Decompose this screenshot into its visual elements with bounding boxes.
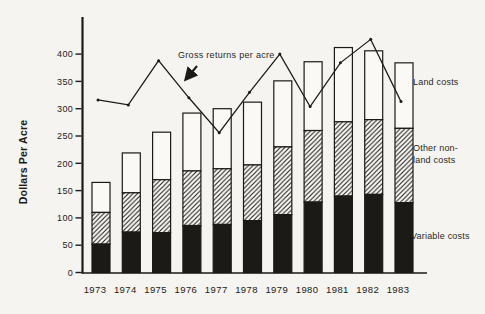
bar-group-1978 (244, 102, 262, 272)
bar-segment-variable-costs (244, 221, 262, 273)
bar-group-1981 (334, 48, 352, 273)
x-tick-label-1974: 1974 (114, 284, 137, 295)
x-tick-label-1977: 1977 (205, 284, 228, 295)
chart-figure: Dollars Per Acre 05010015020025030035040… (0, 0, 485, 314)
y-tick-label-350: 350 (57, 77, 73, 87)
bar-segment-other-nonland-costs (334, 122, 352, 196)
bar-segment-other-nonland-costs (395, 128, 413, 202)
x-tick-label-1978: 1978 (235, 284, 258, 295)
line-point-1973 (97, 98, 100, 101)
bar-segment-land-costs (274, 81, 292, 147)
y-tick-label-250: 250 (57, 131, 73, 141)
line-point-1982 (369, 38, 372, 41)
x-tick-label-1981: 1981 (326, 284, 349, 295)
bar-segment-other-nonland-costs (122, 193, 140, 232)
line-point-1977 (218, 131, 221, 134)
bar-group-1977 (213, 109, 231, 273)
variable-costs-label: Variable costs (411, 231, 470, 243)
bar-segment-land-costs (92, 182, 110, 212)
bar-group-1975 (153, 132, 171, 272)
bar-segment-land-costs (122, 153, 140, 193)
line-point-1979 (278, 53, 281, 56)
bar-segment-other-nonland-costs (365, 120, 383, 195)
y-tick-label-200: 200 (57, 159, 73, 169)
x-tick-label-1973: 1973 (84, 284, 107, 295)
land-costs-label: Land costs (413, 77, 459, 89)
x-tick-label-1975: 1975 (144, 284, 167, 295)
bar-segment-variable-costs (365, 194, 383, 272)
bar-segment-other-nonland-costs (153, 180, 171, 233)
y-tick-label-100: 100 (57, 213, 73, 223)
line-point-1978 (248, 91, 251, 94)
other-nonland-costs-label: Other non- land costs (413, 143, 458, 166)
bars (92, 48, 413, 273)
line-point-1974 (127, 103, 130, 106)
x-tick-label-1976: 1976 (175, 284, 198, 295)
bar-segment-other-nonland-costs (92, 212, 110, 244)
bar-segment-variable-costs (122, 232, 140, 272)
bar-segment-land-costs (304, 62, 322, 131)
bar-segment-variable-costs (153, 233, 171, 273)
bar-segment-other-nonland-costs (183, 171, 201, 226)
bar-segment-variable-costs (183, 226, 201, 273)
x-tick-label-1980: 1980 (296, 284, 319, 295)
bar-segment-variable-costs (304, 202, 322, 272)
bar-group-1976 (183, 113, 201, 272)
bar-segment-land-costs (334, 48, 352, 122)
bar-group-1979 (274, 81, 292, 273)
x-tick-label-1982: 1982 (356, 284, 379, 295)
bar-segment-variable-costs (92, 244, 110, 272)
bar-group-1974 (122, 153, 140, 273)
bar-segment-land-costs (183, 113, 201, 171)
bar-segment-other-nonland-costs (244, 165, 262, 221)
bar-segment-variable-costs (213, 224, 231, 272)
y-tick-label-400: 400 (57, 49, 73, 59)
bar-group-1982 (365, 51, 383, 273)
line-point-1975 (157, 59, 160, 62)
bar-segment-other-nonland-costs (274, 147, 292, 215)
bar-segment-land-costs (244, 102, 262, 165)
bar-group-1973 (92, 182, 110, 272)
line-point-1980 (309, 105, 312, 108)
y-tick-label-300: 300 (57, 104, 73, 114)
x-tick-label-1983: 1983 (387, 284, 410, 295)
y-tick-label-50: 50 (62, 240, 73, 250)
line-point-1976 (187, 96, 190, 99)
line-point-1981 (339, 61, 342, 64)
line-point-1983 (400, 100, 403, 103)
bar-segment-land-costs (365, 51, 383, 120)
bar-segment-other-nonland-costs (213, 169, 231, 225)
annotation-arrow (187, 66, 198, 79)
bar-segment-variable-costs (334, 196, 352, 272)
bar-segment-other-nonland-costs (304, 131, 322, 203)
y-tick-label-0: 0 (68, 268, 73, 278)
bar-segment-land-costs (213, 109, 231, 169)
x-tick-label-1979: 1979 (265, 284, 288, 295)
bar-segment-land-costs (153, 132, 171, 180)
y-tick-label-150: 150 (57, 186, 73, 196)
line-annotation-label: Gross returns per acre (178, 50, 275, 60)
bar-segment-variable-costs (274, 215, 292, 273)
